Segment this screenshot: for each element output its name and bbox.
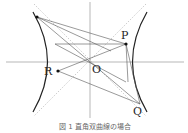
point-r (56, 69, 59, 72)
point-p (124, 42, 127, 45)
label-r: R (44, 66, 52, 77)
label-o: O (92, 64, 101, 75)
label-p: P (121, 30, 128, 41)
label-q: Q (133, 106, 142, 117)
point-top-left (35, 15, 38, 18)
figure-caption: 図 1 直角双曲線の場合 (40, 121, 150, 131)
